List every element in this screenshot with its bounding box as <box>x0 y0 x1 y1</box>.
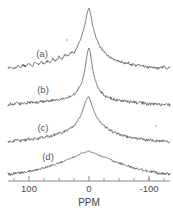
trace-label-c: (c) <box>37 122 48 133</box>
x-axis-tick-label: 100 <box>21 183 37 194</box>
spectrum-trace <box>8 8 170 69</box>
spectra-plot-canvas: 1000-100PPM (a)(b)(c)(d) <box>0 0 173 214</box>
artifact-speck <box>66 39 68 41</box>
trace-paths-group <box>8 8 170 175</box>
trace-label-a: (a) <box>36 48 48 59</box>
artifact-speck <box>155 125 157 127</box>
x-axis-tick-label: 0 <box>86 183 91 194</box>
nmr-spectra-figure: 1000-100PPM (a)(b)(c)(d) <box>0 0 173 214</box>
spectrum-trace <box>8 97 170 143</box>
x-axis-tick-label: -100 <box>139 183 158 194</box>
trace-label-b: (b) <box>37 84 49 95</box>
spectrum-trace <box>8 151 170 175</box>
x-axis-title: PPM <box>78 197 100 208</box>
trace-label-d: (d) <box>42 151 54 162</box>
x-axis-group: 1000-100PPM <box>8 176 170 208</box>
